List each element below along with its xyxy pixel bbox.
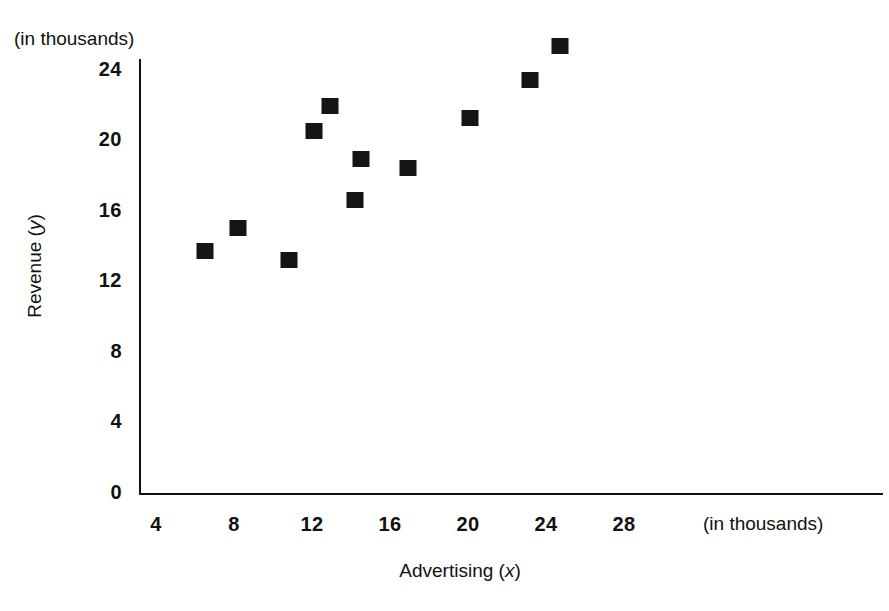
y-axis-title: Revenue (y) [24,186,46,346]
data-point [346,192,363,208]
y-tick-label: 20 [62,128,122,151]
data-point [551,38,568,54]
y-tick-label: 16 [62,199,122,222]
x-tick-label: 12 [292,513,332,536]
x-axis-units-note: (in thousands) [703,513,823,535]
y-axis-title-text: Revenue ( [24,230,45,318]
data-point [352,151,369,167]
plot-area: (in thousands) 04812162024 481216202428 … [0,0,889,611]
data-point [196,243,213,259]
x-tick-label: 20 [448,513,488,536]
y-tick-label: 8 [62,340,122,363]
y-tick-label: 0 [62,481,122,504]
y-tick-label: 12 [62,269,122,292]
y-axis-line [139,59,141,495]
data-point [522,72,539,88]
data-point [399,160,416,176]
y-axis-title-paren: ) [24,214,45,220]
x-tick-label: 24 [526,513,566,536]
data-point [321,98,338,114]
x-axis-line [139,493,883,495]
x-tick-label: 4 [136,513,176,536]
x-tick-label: 16 [370,513,410,536]
data-point [305,123,322,139]
x-axis-title-text: Advertising ( [399,560,505,581]
data-point [229,220,246,236]
x-tick-label: 8 [214,513,254,536]
x-tick-label: 28 [604,513,644,536]
x-axis-title-paren: ) [514,560,520,581]
data-point [280,252,297,268]
scatter-plot-figure: (in thousands) 04812162024 481216202428 … [0,0,889,611]
y-axis-variable: y [24,221,45,231]
data-point [461,110,478,126]
y-axis-units-note: (in thousands) [14,28,134,50]
y-tick-label: 24 [62,58,122,81]
x-axis-title: Advertising (x) [330,560,590,582]
x-axis-variable: x [505,560,515,581]
y-tick-label: 4 [62,410,122,433]
